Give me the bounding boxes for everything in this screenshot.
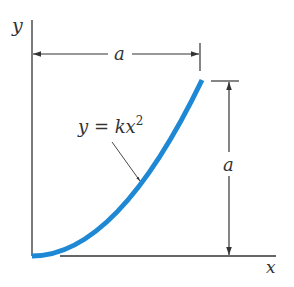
equation-label: y = kx2 xyxy=(77,114,143,137)
horizontal-dimension-label: a xyxy=(114,43,125,64)
x-axis-label: x xyxy=(266,257,276,277)
diagram-svg: y x a a y = kx2 xyxy=(0,0,294,287)
equation-rhs: kx xyxy=(115,116,136,137)
vertical-dimension-label: a xyxy=(223,154,234,175)
equation-equals: = xyxy=(88,116,115,137)
equation-leader-line xyxy=(112,142,140,181)
y-axis-label: y xyxy=(11,14,23,36)
equation-exponent: 2 xyxy=(136,114,144,128)
parabola-curve xyxy=(32,80,202,256)
parabola-diagram: y x a a y = kx2 xyxy=(0,0,294,287)
